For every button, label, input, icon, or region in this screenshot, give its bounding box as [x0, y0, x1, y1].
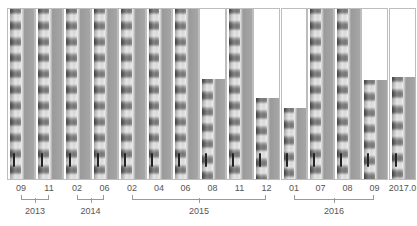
- scan-panel: [307, 8, 334, 180]
- month-label: 08: [334, 183, 362, 193]
- scan-panel: [35, 8, 63, 180]
- scan-image: [36, 9, 62, 179]
- scan-panel: [172, 8, 199, 180]
- scan-image: [335, 9, 360, 179]
- month-label: 09: [7, 183, 35, 193]
- scan-image: [390, 77, 415, 179]
- month-label: 06: [172, 183, 200, 193]
- month-label: 04: [145, 183, 173, 193]
- scan-panel: [118, 8, 146, 180]
- month-label: 02: [63, 183, 91, 193]
- scan-panel: [199, 8, 226, 180]
- scan-image: [282, 108, 306, 179]
- month-label: 2017.0: [389, 183, 417, 193]
- month-label: 02: [118, 183, 146, 193]
- month-label: 06: [91, 183, 119, 193]
- scan-image: [227, 9, 252, 179]
- scan-panel: [334, 8, 361, 180]
- month-label: 11: [226, 183, 254, 193]
- month-label: 09: [361, 183, 389, 193]
- scan-panel: [7, 8, 35, 180]
- scan-panel: [253, 8, 280, 180]
- year-bracket: [21, 195, 49, 200]
- scan-image: [119, 9, 145, 179]
- scan-image: [308, 9, 333, 179]
- year-label: 2013: [15, 206, 55, 216]
- scan-panel: [226, 8, 253, 180]
- year-label: 2015: [179, 206, 219, 216]
- scan-image: [254, 98, 279, 179]
- scan-panel: [91, 8, 118, 180]
- year-label: 2016: [314, 206, 354, 216]
- scan-image: [8, 9, 34, 179]
- month-label: 08: [199, 183, 227, 193]
- scan-image: [200, 79, 225, 179]
- month-label: 07: [307, 183, 335, 193]
- year-bracket: [77, 195, 104, 200]
- scan-image: [64, 9, 90, 179]
- scan-panel: [389, 8, 416, 180]
- scan-panel: [146, 8, 172, 180]
- year-bracket: [294, 195, 374, 200]
- scan-panel: [361, 8, 388, 180]
- scan-image: [362, 80, 387, 179]
- scan-image: [147, 9, 171, 179]
- scan-image: [173, 9, 198, 179]
- month-label: 11: [35, 183, 63, 193]
- scan-panel: [281, 8, 307, 180]
- scan-panel: [63, 8, 91, 180]
- year-bracket: [132, 195, 266, 200]
- month-label: 01: [280, 183, 308, 193]
- year-label: 2014: [71, 206, 111, 216]
- scan-image: [92, 9, 117, 179]
- month-label: 12: [253, 183, 281, 193]
